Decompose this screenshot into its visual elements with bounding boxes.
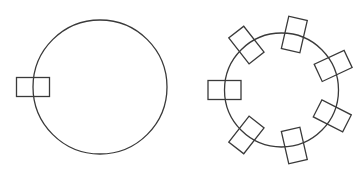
ring-circle [33,20,167,154]
diagram-canvas [0,0,364,177]
left-circle-diagram [17,20,168,154]
right-circle-diagram [208,16,352,164]
